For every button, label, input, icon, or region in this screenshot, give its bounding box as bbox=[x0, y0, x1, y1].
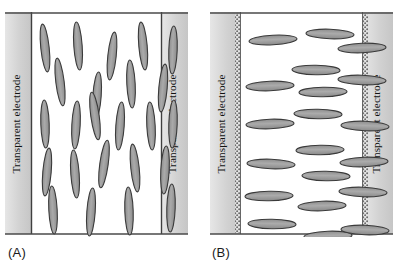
lcd-alignment-figure: Transparent electrode Transparent electr… bbox=[0, 0, 407, 276]
left-electrode-texture-b bbox=[235, 14, 240, 233]
panel-b-caption: (B) bbox=[212, 245, 230, 260]
panel-b-graphic: Transparent electrode Transparent electr… bbox=[210, 12, 393, 237]
panel-a: Transparent electrode Transparent electr… bbox=[5, 12, 188, 237]
liquid-crystal-molecule bbox=[245, 191, 293, 201]
left-electrode-label-a: Transparent electrode bbox=[10, 75, 22, 174]
liquid-crystal-molecule bbox=[248, 219, 296, 229]
panel-a-caption: (A) bbox=[8, 245, 26, 260]
liquid-crystal-molecule bbox=[294, 109, 342, 119]
left-electrode-label-b: Transparent electrode bbox=[215, 75, 227, 174]
panel-a-graphic: Transparent electrode Transparent electr… bbox=[5, 12, 188, 237]
liquid-crystal-molecule bbox=[296, 145, 344, 155]
liquid-crystal-molecule bbox=[292, 65, 340, 75]
panel-b: Transparent electrode Transparent electr… bbox=[210, 12, 393, 237]
liquid-crystal-molecule bbox=[302, 171, 350, 181]
liquid-crystal-molecule bbox=[299, 87, 347, 97]
